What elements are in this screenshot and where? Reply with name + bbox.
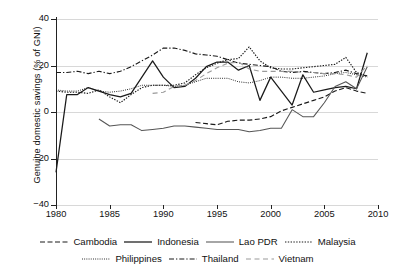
y-tick-label: 40 — [9, 13, 49, 23]
x-tick-label: 1985 — [90, 209, 130, 219]
plot-area — [56, 19, 378, 205]
legend-item-malaysia[interactable]: Malaysia — [284, 236, 362, 247]
y-tick-label: −40 — [9, 199, 49, 209]
legend-swatch-dashed-icon — [39, 237, 69, 247]
legend-item-lao-pdr[interactable]: Lao PDR — [205, 236, 284, 247]
y-axis-title: Genuine domestic savings (% of GNI) — [32, 5, 42, 205]
legend-label: Vietnam — [275, 253, 320, 264]
legend-label: Indonesia — [153, 236, 205, 247]
legend-row: CambodiaIndonesiaLao PDRMalaysia — [0, 233, 401, 250]
series-line-lao-pdr — [99, 67, 367, 132]
x-tick-label: 1995 — [197, 209, 237, 219]
chart-figure: Genuine domestic savings (% of GNI) 4020… — [0, 0, 401, 274]
legend-item-thailand[interactable]: Thailand — [168, 253, 245, 264]
legend-swatch-fine-dotted-icon — [81, 254, 111, 264]
x-tick-label: 2010 — [358, 209, 398, 219]
x-tick-label: 2005 — [304, 209, 344, 219]
y-tick-label: 0 — [9, 106, 49, 116]
legend-label: Thailand — [198, 253, 245, 264]
legend-item-philippines[interactable]: Philippines — [81, 253, 167, 264]
legend: CambodiaIndonesiaLao PDRMalaysiaPhilippi… — [0, 233, 401, 267]
series-line-malaysia — [56, 47, 367, 103]
series-line-philippines — [56, 72, 367, 92]
x-tick-label: 2000 — [251, 209, 291, 219]
legend-swatch-solid-grey-icon — [205, 237, 235, 247]
series-lines — [56, 19, 378, 205]
y-tick-label: −20 — [9, 153, 49, 163]
x-tick-label: 1990 — [143, 209, 183, 219]
legend-swatch-solid-icon — [123, 237, 153, 247]
legend-label: Lao PDR — [235, 236, 284, 247]
legend-swatch-dash-dot-icon — [168, 254, 198, 264]
legend-item-cambodia[interactable]: Cambodia — [39, 236, 123, 247]
legend-row: PhilippinesThailandVietnam — [0, 250, 401, 267]
legend-label: Malaysia — [314, 236, 362, 247]
legend-label: Cambodia — [69, 236, 123, 247]
x-tick-label: 1980 — [36, 209, 76, 219]
legend-swatch-dotted-icon — [284, 237, 314, 247]
legend-swatch-long-dash-light-icon — [245, 254, 275, 264]
series-line-vietnam — [153, 62, 368, 93]
series-line-cambodia — [196, 88, 368, 125]
legend-item-indonesia[interactable]: Indonesia — [123, 236, 205, 247]
legend-label: Philippines — [111, 253, 167, 264]
y-tick-label: 20 — [9, 60, 49, 70]
series-line-thailand — [56, 48, 367, 76]
legend-item-vietnam[interactable]: Vietnam — [245, 253, 320, 264]
